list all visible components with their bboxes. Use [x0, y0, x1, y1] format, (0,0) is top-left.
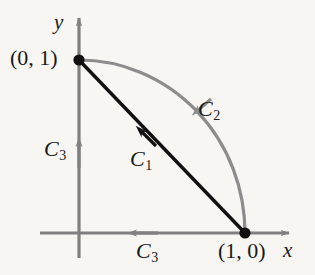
curve-c2-letter: C — [198, 96, 213, 121]
curve-c1-letter: C — [130, 146, 145, 171]
point-0-1-label: (0, 1) — [10, 47, 58, 69]
curve-c1-label: C1 — [130, 148, 152, 173]
curve-c3-left-subscript: 3 — [59, 148, 66, 163]
c1-line-path — [79, 60, 245, 233]
point-1-0-dot — [239, 227, 250, 238]
curve-c3-left-label: C3 — [44, 138, 66, 163]
math-figure-quarter-circle: y x (0, 1) (1, 0) C1 C2 C3 C3 — [0, 0, 315, 275]
curve-c2-label: C2 — [198, 98, 220, 123]
y-axis-label: y — [54, 12, 63, 33]
curve-c2-subscript: 2 — [213, 108, 220, 123]
curve-c3-bottom-subscript: 3 — [151, 250, 158, 265]
curve-c3-bottom-letter: C — [136, 238, 151, 263]
x-axis-label: x — [283, 240, 292, 261]
curve-c3-left-letter: C — [44, 136, 59, 161]
curve-c3-bottom-label: C3 — [136, 240, 158, 265]
curve-c1-segment — [79, 60, 245, 233]
point-0-1-dot — [73, 54, 84, 65]
curve-c1-subscript: 1 — [145, 158, 152, 173]
point-1-0-label: (1, 0) — [218, 240, 266, 262]
